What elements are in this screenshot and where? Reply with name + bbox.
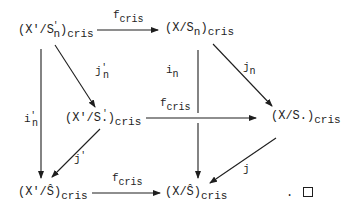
label-middle-fcris: fcris xyxy=(160,98,191,113)
label-in-prime: i'n xyxy=(24,112,38,129)
label-in: in xyxy=(166,65,179,80)
label-top-fcris: fcris xyxy=(113,10,144,25)
arrow-jn-prime xyxy=(55,45,95,107)
label-bottom-fcris: fcris xyxy=(112,173,143,188)
label-j: j xyxy=(243,164,250,175)
label-jn: jn xyxy=(243,62,256,77)
qed-box-icon xyxy=(303,187,313,197)
label-j-prime: j' xyxy=(74,152,86,165)
node-mid-right: (X/S.)cris xyxy=(271,110,341,126)
label-jn-prime: j'n xyxy=(95,64,109,81)
period-mark: . xyxy=(286,186,293,200)
node-bottom-left: (X'/Ŝ)cris xyxy=(18,186,88,202)
node-top-left: (X'/S'n)cris xyxy=(18,22,94,40)
arrow-j xyxy=(210,138,276,183)
node-bottom-right: (X/Ŝ)cris xyxy=(165,186,227,202)
node-mid-left: (X'/S.')cris xyxy=(65,110,141,128)
node-top-right: (X/Sn)cris xyxy=(165,22,234,38)
